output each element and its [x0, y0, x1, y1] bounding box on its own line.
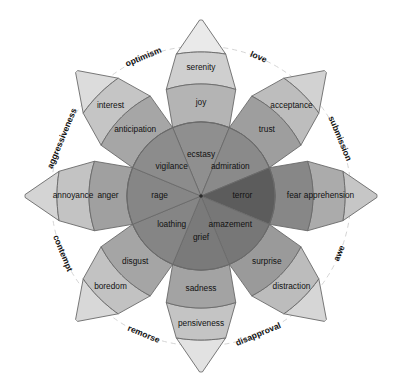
label-sadness: sadness [186, 283, 217, 293]
center-dot [199, 194, 203, 198]
dyad-label-disapproval: disapproval [234, 320, 282, 348]
label-annoyance: annoyance [53, 190, 94, 200]
label-loathing: loathing [157, 219, 186, 229]
dyad-label-contempt: contempt [51, 233, 75, 273]
label-fear: fear [287, 190, 302, 200]
label-joy: joy [195, 97, 207, 107]
label-acceptance: acceptance [270, 100, 313, 110]
segment-joy-tip[interactable] [176, 20, 225, 54]
dyad-label-optimism: optimism [124, 45, 163, 69]
label-anticipation: anticipation [114, 124, 156, 134]
label-admiration: admiration [211, 161, 250, 171]
label-surprise: surprise [252, 256, 282, 266]
dyad-label-aggressiveness: aggressiveness [45, 106, 79, 170]
label-interest: interest [97, 100, 125, 110]
label-vigilance: vigilance [156, 161, 189, 171]
label-trust: trust [259, 124, 276, 134]
segment-sadness-tip[interactable] [176, 338, 225, 372]
label-amazement: amazement [209, 219, 253, 229]
emotion-wheel-figure: ecstasyjoyserenityadmirationtrustaccepta… [0, 0, 401, 392]
dyad-label-submission: submission [327, 114, 355, 162]
label-terror: terror [232, 190, 252, 200]
label-pensiveness: pensiveness [178, 318, 224, 328]
dyad-label-awe: awe [331, 244, 347, 263]
label-apprehension: apprehension [304, 190, 355, 200]
label-distraction: distraction [273, 281, 311, 291]
label-anger: anger [97, 190, 118, 200]
dyad-label-love: love [249, 49, 269, 65]
label-serenity: serenity [186, 62, 216, 72]
label-grief: grief [193, 232, 210, 242]
label-ecstasy: ecstasy [187, 149, 216, 159]
label-rage: rage [151, 190, 168, 200]
label-disgust: disgust [122, 256, 149, 266]
label-boredom: boredom [94, 281, 127, 291]
dyad-label-remorse: remorse [126, 323, 161, 345]
